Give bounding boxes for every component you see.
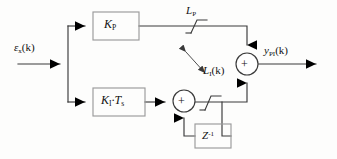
wire-integrator-to-sum xyxy=(195,83,247,102)
label-output-signal: yPI(k) xyxy=(264,45,288,58)
label-unit-delay: Z-1 xyxy=(202,130,214,141)
label-sum-lower-sign: + xyxy=(178,95,185,107)
label-sum-right-sign: + xyxy=(241,58,248,70)
label-gain-integral: KI·Ts xyxy=(101,94,124,107)
label-gain-proportional: KP xyxy=(104,18,116,31)
wire-delay-feedback xyxy=(184,118,195,136)
label-integral-path: LI(k) xyxy=(203,65,224,78)
wire-tap-to-delay xyxy=(222,102,231,136)
label-input-signal: εx(k) xyxy=(14,42,35,55)
label-proportional-path: LP xyxy=(186,5,196,18)
pi-controller-diagram: εx(k) KP KI·Ts Z-1 LP LI(k) yPI(k) + + xyxy=(0,0,337,159)
diagram-canvas xyxy=(0,0,337,159)
tap-mark-li xyxy=(205,96,221,110)
